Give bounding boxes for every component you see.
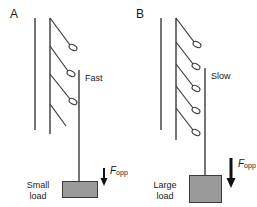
force-subscript: opp	[244, 162, 256, 169]
load-box-small	[62, 181, 98, 198]
cross-bridge	[176, 86, 201, 115]
load-label-line1: Large	[144, 180, 186, 191]
cross-bridge	[176, 64, 201, 93]
force-subscript: opp	[116, 169, 128, 176]
load-label-small: Small load	[18, 180, 58, 202]
force-arrow	[227, 158, 236, 188]
load-label-line2: load	[144, 191, 186, 202]
panel-b: B	[128, 0, 256, 207]
load-label-large: Large load	[144, 180, 186, 202]
load-label-line1: Small	[18, 180, 58, 191]
cross-bridge	[50, 18, 78, 52]
force-arrow	[101, 168, 108, 186]
cross-bridge	[50, 104, 66, 126]
force-label-opp: Fopp	[238, 159, 256, 171]
cross-bridge	[176, 108, 201, 137]
load-label-line2: load	[18, 191, 58, 202]
panel-a: A	[0, 0, 128, 207]
force-label-opp: Fopp	[110, 166, 128, 178]
cross-bridge	[176, 42, 201, 71]
speed-label-fast: Fast	[85, 73, 103, 83]
cross-bridge	[176, 18, 202, 49]
cross-bridge	[50, 46, 76, 78]
speed-label-slow: Slow	[211, 71, 231, 81]
cross-bridge	[50, 74, 78, 106]
load-box-large	[189, 175, 222, 203]
panel-a-filaments	[0, 0, 128, 207]
muscle-contraction-figure: A	[0, 0, 257, 207]
